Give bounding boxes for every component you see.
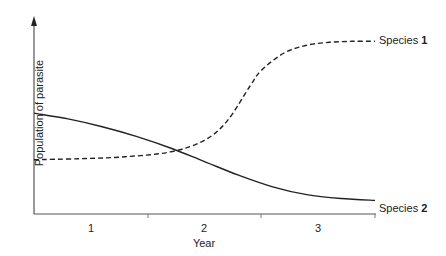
legend-species-2-number: 2 <box>421 202 427 214</box>
series-species-1-line <box>34 41 375 159</box>
y-axis-label: Population of parasite <box>33 53 45 173</box>
x-tick-label-1: 1 <box>88 222 94 234</box>
legend-species-1-number: 1 <box>421 34 427 46</box>
series-species-2-line <box>34 113 375 200</box>
x-tick-label-2: 2 <box>201 222 207 234</box>
y-axis-arrow-icon <box>31 16 37 26</box>
legend-species-1-prefix: Species <box>379 34 421 46</box>
x-tick-label-3: 3 <box>315 222 321 234</box>
legend-species-2-prefix: Species <box>379 202 421 214</box>
legend-species-1: Species 1 <box>379 34 427 46</box>
x-axis-label: Year <box>193 237 215 249</box>
legend-species-2: Species 2 <box>379 202 427 214</box>
x-axis-ticks <box>148 214 375 218</box>
